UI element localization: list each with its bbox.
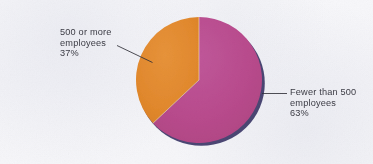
pie-label-500-or-more-line1: 500 or more bbox=[60, 27, 112, 38]
pie-label-fewer-than-500-line2: employees bbox=[290, 98, 356, 109]
pie-label-fewer-than-500: Fewer than 500 employees 63% bbox=[290, 87, 356, 119]
pie-chart-graphic bbox=[0, 0, 373, 164]
pie-label-fewer-than-500-line1: Fewer than 500 bbox=[290, 87, 356, 98]
pie-label-500-or-more-value: 37% bbox=[60, 48, 112, 59]
pie-label-fewer-than-500-value: 63% bbox=[290, 108, 356, 119]
pie-label-500-or-more: 500 or more employees 37% bbox=[60, 27, 112, 59]
pie-chart-figure: 500 or more employees 37% Fewer than 500… bbox=[0, 0, 373, 164]
pie-label-500-or-more-line2: employees bbox=[60, 38, 112, 49]
